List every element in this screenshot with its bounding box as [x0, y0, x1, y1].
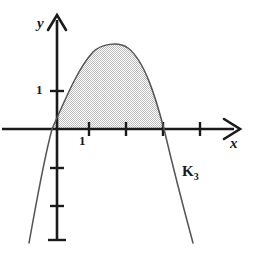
parabola-figure: y x 1 1 K3 — [0, 0, 254, 257]
x-tick-label-1: 1 — [79, 134, 86, 147]
y-axis-label: y — [37, 16, 44, 31]
shaded-area — [52, 44, 164, 129]
curve-label-letter: K — [182, 163, 194, 179]
y-tick-label-1: 1 — [36, 83, 43, 96]
plot-canvas — [0, 0, 254, 257]
curve-label-subscript: 3 — [194, 171, 199, 182]
x-axis-label: x — [230, 136, 238, 151]
curve-label-k3: K3 — [182, 164, 199, 182]
